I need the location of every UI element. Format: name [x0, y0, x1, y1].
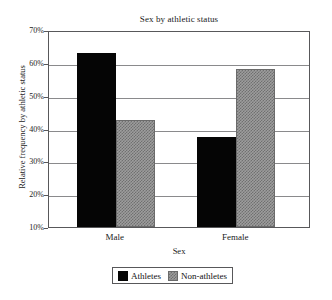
y-axis-title: Relative frequency by athletic status — [17, 27, 27, 227]
chart-title: Sex by athletic status — [48, 14, 310, 24]
black-solid-swatch — [118, 271, 128, 281]
bar-female-athletes — [197, 137, 236, 227]
x-tick-label-female: Female — [195, 232, 275, 242]
bar-male-athletes — [77, 53, 116, 227]
plot-area — [48, 31, 310, 228]
chart-legend: AthletesNon-athletes — [112, 267, 233, 284]
legend-entry-non-athletes: Non-athletes — [168, 271, 227, 281]
legend-label: Non-athletes — [181, 271, 227, 281]
legend-entry-athletes: Athletes — [118, 271, 161, 281]
chart-figure: Sex by athletic status Relative frequenc… — [0, 0, 332, 300]
bar-female-non-athletes — [236, 69, 275, 227]
gray-hatched-swatch — [168, 271, 178, 281]
x-axis-title: Sex — [48, 246, 310, 256]
legend-label: Athletes — [131, 271, 161, 281]
x-tick-label-male: Male — [75, 232, 155, 242]
bar-male-non-athletes — [116, 120, 155, 227]
y-tick-mark — [44, 228, 48, 229]
